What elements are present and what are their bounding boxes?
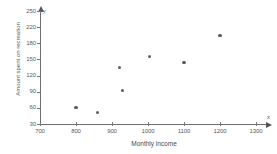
x-axis-tick-label: 1300 [241, 128, 271, 134]
x-axis-title: Monthly income [40, 140, 268, 147]
data-point [182, 61, 185, 64]
scatter-plot-figure: y x 306090120150180220250 70080090010001… [0, 0, 277, 154]
x-axis-tick-label: 1100 [169, 128, 199, 134]
y-axis-title: Amount spent on recreation [15, 4, 21, 114]
data-point [118, 66, 121, 69]
x-axis-tick-label: 800 [61, 128, 91, 134]
x-axis-tick-label: 900 [97, 128, 127, 134]
x-axis-tick-label: 1200 [205, 128, 235, 134]
y-axis-tick-label: 30 [12, 121, 36, 127]
data-point [96, 111, 99, 114]
x-axis-tick-label: 700 [25, 128, 55, 134]
data-points-layer [40, 12, 268, 124]
data-point [74, 106, 77, 109]
x-axis-tick-label: 1000 [133, 128, 163, 134]
data-point [148, 55, 151, 58]
data-point [218, 34, 221, 37]
x-axis-line [40, 124, 268, 125]
data-point [121, 89, 124, 92]
